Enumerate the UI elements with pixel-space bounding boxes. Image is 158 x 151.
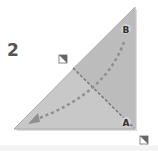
fold-diagram: B A (0, 0, 158, 151)
svg-text:B: B (123, 25, 130, 35)
svg-text:A: A (123, 118, 130, 128)
fold-marker-bottom-icon (140, 136, 148, 144)
fold-marker-top-icon (59, 55, 67, 63)
